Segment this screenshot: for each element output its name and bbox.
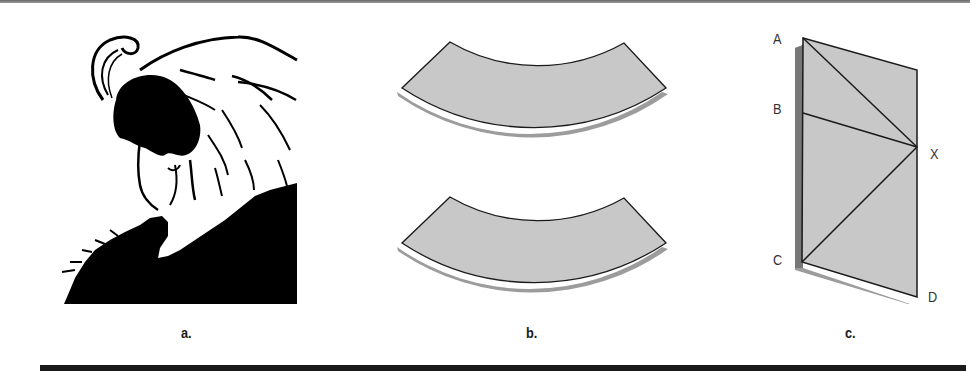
figure-canvas (0, 0, 978, 371)
panel-label-c: c. (845, 324, 856, 341)
panel-b-arcs (397, 42, 668, 292)
panel-label-b: b. (526, 324, 537, 341)
point-label-c: C (773, 251, 782, 268)
point-label-x: X (930, 145, 939, 162)
panel-label-a: a. (181, 324, 192, 341)
panel-c-parallelogram (795, 38, 917, 304)
bottom-bar (40, 365, 966, 371)
parallelogram (802, 38, 917, 297)
panel-a-illustration (62, 37, 297, 304)
point-label-d: D (928, 288, 937, 305)
point-label-a: A (773, 30, 782, 47)
point-label-b: B (773, 100, 782, 117)
